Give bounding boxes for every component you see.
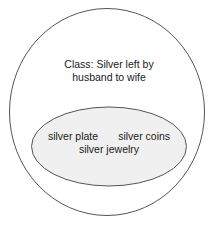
members-label: silver platesilver coins silver jewelry <box>0 130 218 156</box>
member-item-silver-coins: silver coins <box>118 130 170 142</box>
member-item-silver-jewelry: silver jewelry <box>0 143 218 156</box>
members-row-primary: silver platesilver coins <box>0 130 218 143</box>
member-item-silver-plate: silver plate <box>48 130 98 142</box>
class-label-line-2: husband to wife <box>0 71 218 84</box>
class-label-line-1: Class: Silver left by <box>0 58 218 71</box>
diagram-canvas: Class: Silver left by husband to wife si… <box>0 0 218 228</box>
class-label: Class: Silver left by husband to wife <box>0 58 218 84</box>
diagram-shapes <box>0 0 218 228</box>
